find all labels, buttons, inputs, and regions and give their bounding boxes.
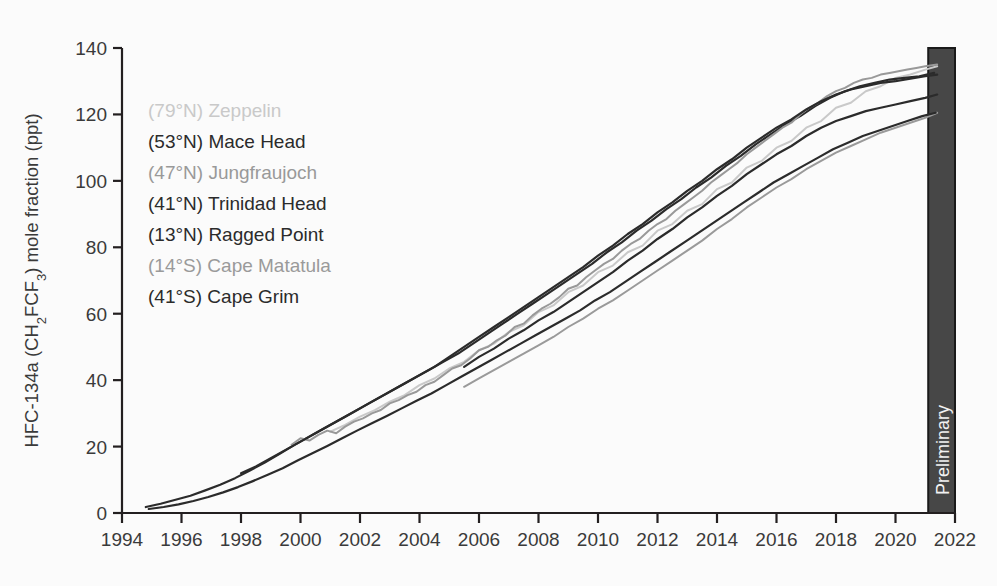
y-tick-label: 0 bbox=[96, 503, 107, 524]
series-line-jungfraujoch bbox=[292, 65, 938, 445]
x-tick-label: 2022 bbox=[934, 529, 976, 550]
legend-item-3: (41°N) Trinidad Head bbox=[148, 193, 327, 214]
x-tick-label: 2000 bbox=[279, 529, 321, 550]
x-tick-label: 2006 bbox=[458, 529, 500, 550]
y-axis-title: HFC-134a (CH2FCF3) mole fraction (ppt) bbox=[21, 113, 49, 447]
legend-item-2: (47°N) Jungfraujoch bbox=[148, 162, 317, 183]
x-tick-label: 2014 bbox=[696, 529, 739, 550]
y-tick-label: 40 bbox=[86, 370, 107, 391]
x-tick-label: 2002 bbox=[339, 529, 381, 550]
series-line-cape-matatula bbox=[464, 113, 937, 387]
x-tick-label: 2012 bbox=[636, 529, 678, 550]
legend-item-6: (41°S) Cape Grim bbox=[148, 286, 299, 307]
x-tick-label: 2008 bbox=[517, 529, 559, 550]
y-tick-label: 120 bbox=[75, 104, 107, 125]
x-tick-label: 2004 bbox=[398, 529, 441, 550]
x-tick-label: 2020 bbox=[874, 529, 916, 550]
chart-figure: Preliminary02040608010012014019941996199… bbox=[0, 0, 997, 586]
x-tick-label: 2016 bbox=[755, 529, 797, 550]
x-tick-label: 2018 bbox=[815, 529, 857, 550]
y-tick-label: 20 bbox=[86, 437, 107, 458]
x-tick-label: 1994 bbox=[101, 529, 144, 550]
hfc134a-line-chart: Preliminary02040608010012014019941996199… bbox=[0, 0, 997, 586]
series-line-zeppelin bbox=[330, 66, 937, 431]
x-tick-label: 2010 bbox=[577, 529, 619, 550]
legend-item-4: (13°N) Ragged Point bbox=[148, 224, 324, 245]
preliminary-label: Preliminary bbox=[933, 405, 953, 495]
y-tick-label: 60 bbox=[86, 304, 107, 325]
legend-item-1: (53°N) Mace Head bbox=[148, 131, 306, 152]
x-tick-label: 1996 bbox=[160, 529, 202, 550]
y-tick-label: 100 bbox=[75, 171, 107, 192]
legend-item-5: (14°S) Cape Matatula bbox=[148, 255, 331, 276]
x-tick-label: 1998 bbox=[220, 529, 262, 550]
legend-item-0: (79°N) Zeppelin bbox=[148, 100, 281, 121]
y-tick-label: 80 bbox=[86, 237, 107, 258]
y-tick-label: 140 bbox=[75, 38, 107, 59]
